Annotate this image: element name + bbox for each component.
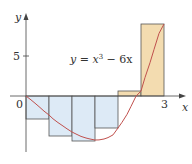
x-tick-label-3: 3 [161,98,168,111]
x-axis-label: x [182,101,189,114]
rect-1 [26,96,49,119]
y-axis-label: y [14,11,22,24]
rect-4 [95,96,118,128]
rect-6 [141,24,164,96]
y-axis-arrow-icon [24,13,29,20]
negative-rectangles [26,96,118,141]
x-axis-arrow-icon [179,94,186,99]
y-tick-label-5: 5 [13,50,20,63]
function-label: y = x3 − 6x [69,53,133,66]
origin-label: 0 [16,98,23,111]
riemann-sum-diagram: y x 5 0 3 y = x3 − 6x [0,0,192,164]
